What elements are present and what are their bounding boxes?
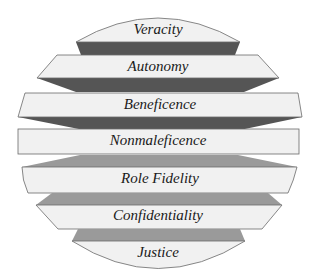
layer-autonomy: Autonomy bbox=[37, 55, 279, 92]
layer-veracity: Veracity bbox=[76, 18, 240, 55]
autonomy-label: Autonomy bbox=[127, 58, 189, 74]
layer-confidentiality: Confidentiality bbox=[36, 193, 282, 229]
role-fidelity-label: Role Fidelity bbox=[120, 170, 199, 186]
veracity-shadow bbox=[76, 42, 240, 55]
justice-label: Justice bbox=[137, 244, 179, 260]
confidentiality-shadow bbox=[36, 193, 282, 205]
layer-role-fidelity: Role Fidelity bbox=[22, 155, 297, 193]
justice-shadow bbox=[72, 229, 245, 241]
nonmaleficence-label: Nonmaleficence bbox=[109, 132, 207, 148]
role-fidelity-shadow bbox=[22, 155, 297, 167]
autonomy-shadow bbox=[37, 78, 279, 92]
beneficence-shadow bbox=[18, 117, 302, 130]
layer-justice: Justice bbox=[72, 229, 245, 269]
beneficence-label: Beneficence bbox=[124, 96, 197, 112]
veracity-label: Veracity bbox=[133, 21, 182, 37]
confidentiality-label: Confidentiality bbox=[113, 207, 203, 223]
layer-nonmaleficence: Nonmaleficence bbox=[18, 129, 299, 154]
ethical-principles-diagram: Veracity Autonomy Beneficence Nonmalefic… bbox=[0, 0, 311, 279]
layer-beneficence: Beneficence bbox=[18, 93, 302, 130]
